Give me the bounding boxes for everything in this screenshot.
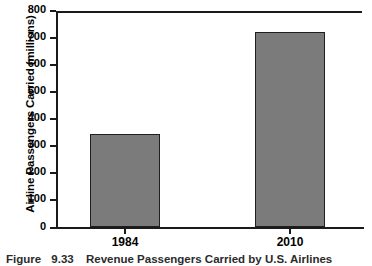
y-tick-label: 100 bbox=[0, 192, 46, 204]
x-tick-mark-1984 bbox=[124, 229, 126, 234]
figure-caption: Figure 9.33 Revenue Passengers Carried b… bbox=[6, 253, 372, 265]
x-axis-label-1984: 1984 bbox=[80, 235, 170, 249]
y-tick-mark bbox=[50, 10, 56, 12]
y-tick-label: 200 bbox=[0, 165, 46, 177]
x-axis-line bbox=[56, 227, 364, 229]
x-axis-label-2010: 2010 bbox=[245, 235, 335, 249]
y-tick-mark bbox=[50, 118, 56, 120]
y-tick-label: 300 bbox=[0, 138, 46, 150]
caption-number: 9.33 bbox=[51, 253, 73, 265]
y-tick-mark bbox=[50, 64, 56, 66]
caption-label: Figure bbox=[6, 253, 41, 265]
bar-1984[interactable] bbox=[90, 134, 160, 227]
y-tick-label: 0 bbox=[0, 220, 46, 232]
caption-text: Revenue Passengers Carried by U.S. Airli… bbox=[86, 253, 332, 265]
x-tick-mark-2010 bbox=[289, 229, 291, 234]
y-tick-mark bbox=[50, 91, 56, 93]
y-tick-label: 600 bbox=[0, 57, 46, 69]
y-tick-label: 700 bbox=[0, 30, 46, 42]
y-tick-label: 500 bbox=[0, 84, 46, 96]
figure-container: Airline Passengers Carried (millions) 80… bbox=[0, 0, 372, 266]
y-tick-label: 400 bbox=[0, 111, 46, 123]
y-tick-mark bbox=[50, 172, 56, 174]
y-tick-label: 800 bbox=[0, 3, 46, 15]
y-tick-mark bbox=[50, 145, 56, 147]
y-tick-mark bbox=[50, 199, 56, 201]
y-tick-mark bbox=[50, 37, 56, 39]
y-tick-mark bbox=[50, 227, 56, 229]
bar-2010[interactable] bbox=[255, 32, 325, 227]
